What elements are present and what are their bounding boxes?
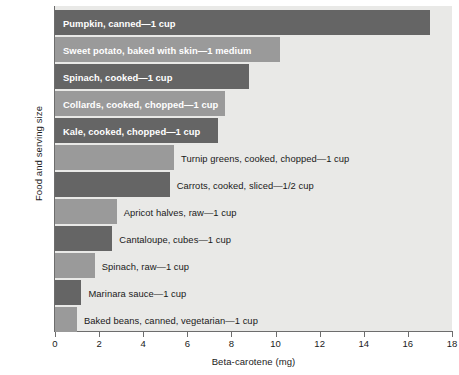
bar (55, 307, 77, 332)
x-tick-label: 14 (358, 338, 369, 349)
x-tick-mark (364, 332, 365, 337)
beta-carotene-bar-chart: Food and serving size Pumpkin, canned—1 … (0, 0, 459, 375)
x-tick-mark (408, 332, 409, 337)
x-tick-label: 6 (185, 338, 190, 349)
bar-label: Pumpkin, canned—1 cup (63, 17, 176, 28)
bar (55, 172, 170, 197)
x-tick-mark (187, 332, 188, 337)
x-tick-label: 10 (270, 338, 281, 349)
x-tick-label: 2 (96, 338, 101, 349)
bar-label: Baked beans, canned, vegetarian—1 cup (84, 314, 258, 325)
y-axis-title: Food and serving size (33, 54, 44, 254)
x-tick-mark (55, 332, 56, 337)
x-tick-mark (276, 332, 277, 337)
x-tick-label: 16 (403, 338, 414, 349)
bar-label: Turnip greens, cooked, chopped—1 cup (181, 152, 349, 163)
x-axis-title: Beta-carotene (mg) (55, 356, 452, 367)
bar (55, 145, 174, 170)
x-axis-line (54, 331, 453, 332)
x-tick-mark (231, 332, 232, 337)
bar (55, 280, 81, 305)
bar-label: Sweet potato, baked with skin—1 medium (63, 44, 251, 55)
bar-label: Carrots, cooked, sliced—1/2 cup (177, 179, 314, 190)
bar-label: Cantaloupe, cubes—1 cup (119, 233, 231, 244)
bar (55, 226, 112, 251)
x-tick-label: 12 (314, 338, 325, 349)
x-tick-label: 4 (141, 338, 146, 349)
bar-label: Spinach, cooked—1 cup (63, 71, 172, 82)
bar (55, 199, 117, 224)
bar (55, 253, 95, 278)
bar-label: Collards, cooked, chopped—1 cup (63, 98, 218, 109)
bar-label: Apricot halves, raw—1 cup (124, 206, 237, 217)
x-tick-label: 18 (447, 338, 458, 349)
x-tick-label: 0 (52, 338, 57, 349)
bar-label: Spinach, raw—1 cup (102, 260, 189, 271)
x-tick-label: 8 (229, 338, 234, 349)
x-tick-mark (143, 332, 144, 337)
plot-area: Pumpkin, canned—1 cupSweet potato, baked… (55, 6, 452, 331)
x-tick-mark (99, 332, 100, 337)
bar-label: Marinara sauce—1 cup (88, 287, 186, 298)
bar-label: Kale, cooked, chopped—1 cup (63, 125, 200, 136)
x-tick-mark (320, 332, 321, 337)
x-tick-mark (452, 332, 453, 337)
